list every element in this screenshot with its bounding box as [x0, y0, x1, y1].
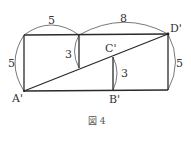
label-left-side: 5: [8, 57, 15, 70]
bottom-edge: [24, 90, 168, 91]
label-cb-segment: 3: [121, 67, 128, 80]
label-point-b: B': [109, 93, 120, 106]
label-top-right: 8: [120, 12, 127, 25]
figure-caption: 図 4: [88, 116, 106, 126]
arc-right-side: [168, 34, 176, 90]
label-point-a: A': [11, 92, 23, 105]
label-point-c: C': [105, 42, 116, 55]
arc-middle-segment: [75, 35, 80, 68]
label-top-left: 5: [48, 14, 55, 27]
label-right-side: 5: [176, 57, 183, 70]
top-edge: [24, 34, 168, 35]
label-point-d: D': [170, 22, 182, 35]
label-middle-segment: 3: [65, 48, 72, 61]
geometry-figure: 5 8 5 3 3 5 A' B' C' D' 図 4: [0, 0, 191, 142]
diagonal-ad: [24, 34, 168, 91]
point-a-dot: [23, 90, 25, 92]
arc-left-side: [15, 35, 24, 91]
point-d-dot: [167, 33, 170, 36]
